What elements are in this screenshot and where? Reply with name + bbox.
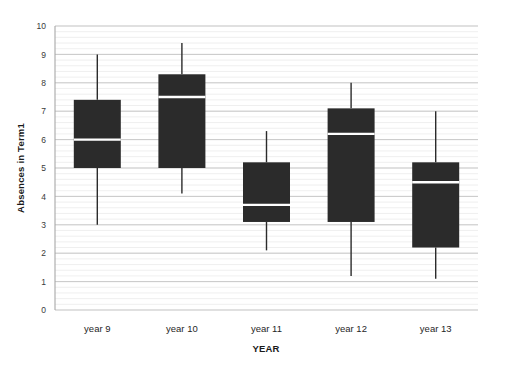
box-iqr — [328, 108, 375, 222]
box-plot-chart: 012345678910 year 9year 10year 11year 12… — [0, 0, 505, 372]
box-iqr — [412, 162, 459, 247]
y-axis-title: Absences in Term1 — [15, 123, 26, 213]
y-tick-label: 8 — [41, 78, 46, 88]
y-tick-label: 2 — [41, 248, 46, 258]
chart-canvas: 012345678910 year 9year 10year 11year 12… — [0, 0, 505, 372]
box-iqr — [74, 100, 121, 168]
x-category-label: year 9 — [84, 323, 110, 334]
y-tick-label: 0 — [41, 305, 46, 315]
box-plot-series — [74, 43, 459, 279]
x-axis-category-labels: year 9year 10year 11year 12year 13 — [84, 323, 451, 334]
x-category-label: year 10 — [166, 323, 198, 334]
y-tick-label: 4 — [41, 192, 46, 202]
box-plot-item — [74, 54, 121, 224]
x-category-label: year 13 — [420, 323, 452, 334]
y-tick-label: 7 — [41, 106, 46, 116]
y-tick-label: 9 — [41, 50, 46, 60]
x-category-label: year 12 — [335, 323, 367, 334]
box-plot-item — [243, 131, 290, 250]
y-tick-label: 6 — [41, 135, 46, 145]
box-iqr — [243, 162, 290, 222]
y-tick-label: 5 — [41, 163, 46, 173]
y-tick-label: 10 — [37, 21, 47, 31]
y-tick-label: 3 — [41, 220, 46, 230]
x-category-label: year 11 — [251, 323, 282, 334]
x-axis-title: YEAR — [252, 343, 279, 354]
y-tick-label: 1 — [41, 277, 46, 287]
y-axis-tick-labels: 012345678910 — [37, 21, 47, 315]
box-iqr — [158, 74, 205, 168]
box-plot-item — [328, 83, 375, 276]
